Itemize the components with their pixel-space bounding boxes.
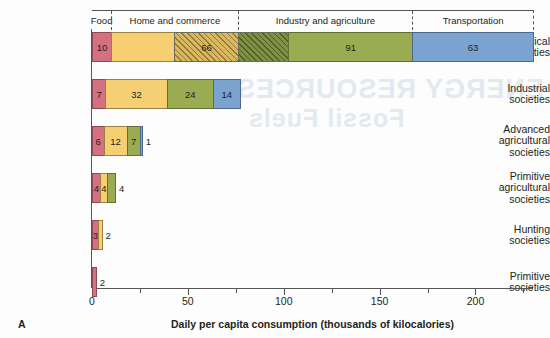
bar-segment-value: 91 <box>345 42 356 53</box>
bar-segment-value: 63 <box>468 42 479 53</box>
bar-segment-value-outside: 1 <box>142 126 151 156</box>
bar-segment-home-and-commerce: 32 <box>105 79 167 109</box>
bar-segment-value: 4 <box>94 183 99 194</box>
bar-segment-transportation: 63 <box>412 32 534 62</box>
category-header-food: Food <box>92 11 111 30</box>
bar-segment-value: 32 <box>131 89 142 100</box>
bar-row-primitive-societies: 2 <box>92 267 533 297</box>
bar-segment-industry-and-agriculture <box>238 32 290 62</box>
category-header-label: Food <box>91 15 113 26</box>
bar-segment-home-and-commerce: 66 <box>174 32 238 62</box>
bar-row-industrial-societies: 7322414 <box>92 79 533 109</box>
category-header-home-and-commerce: Home and commerce <box>111 11 238 30</box>
bar-segment-value: 12 <box>110 136 121 147</box>
category-header-label: Home and commerce <box>130 15 221 26</box>
bar-row-hunting-societies: 32 <box>92 220 533 250</box>
bar-segment-industry-and-agriculture: 24 <box>167 79 214 109</box>
bar-segment-value-outside: 4 <box>115 173 124 203</box>
category-header-band: FoodHome and commerceIndustry and agricu… <box>92 10 534 30</box>
bar-segment-home-and-commerce <box>111 32 175 62</box>
plot-area: 10669163732241461271444322 <box>92 29 533 286</box>
bar-segment-industry-and-agriculture: 7 <box>127 126 141 156</box>
bar-segment-value-outside: 2 <box>96 267 105 297</box>
bar-segment-home-and-commerce: 12 <box>104 126 128 156</box>
bar-segment-value: 10 <box>97 42 108 53</box>
figure-panel-a: FoodHome and commerceIndustry and agricu… <box>0 0 550 338</box>
bar-segment-value: 14 <box>221 89 232 100</box>
bar-segment-industry-and-agriculture: 91 <box>288 32 413 62</box>
bar-segment-value: 6 <box>96 136 101 147</box>
bar-row-technological-societies: 10669163 <box>92 32 533 62</box>
bar-row-primitive-agricultural-societies: 444 <box>92 173 533 203</box>
bar-segment-food: 7 <box>92 79 106 109</box>
bar-segment-value: 7 <box>97 89 102 100</box>
bar-segment-food: 10 <box>92 32 112 62</box>
bar-segment-value-outside: 2 <box>102 220 111 250</box>
bar-segment-transportation: 14 <box>213 79 241 109</box>
x-axis-title: Daily per capita consumption (thousands … <box>92 318 533 330</box>
bar-segment-value: 66 <box>201 42 212 53</box>
bar-segment-value: 24 <box>185 89 196 100</box>
panel-letter: A <box>18 318 26 330</box>
bar-segment-value: 4 <box>101 183 106 194</box>
bar-row-advanced-agricultural-societies: 61271 <box>92 126 533 156</box>
bar-segment-value: 7 <box>131 136 136 147</box>
category-header-industry-and-agriculture: Industry and agriculture <box>238 11 412 30</box>
category-header-transportation: Transportation <box>412 11 533 30</box>
category-header-label: Industry and agriculture <box>276 15 375 26</box>
category-header-label: Transportation <box>443 15 504 26</box>
